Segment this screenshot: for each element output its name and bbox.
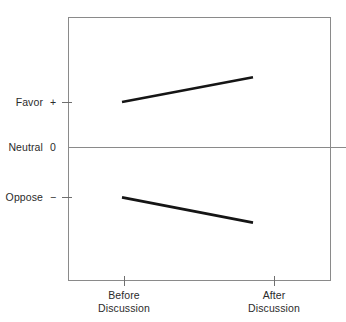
x-axis-label-before-line1: Before [69, 289, 179, 302]
x-axis-label-before-line2: Discussion [69, 302, 179, 315]
x-axis-label-before-discussion: Before Discussion [69, 289, 179, 314]
y-axis-label-neutral: Neutral0 [8, 141, 59, 153]
y-axis-label-oppose-text: Oppose [6, 191, 43, 203]
y-axis-label-favor: Favor+ [16, 96, 59, 108]
x-axis-label-after-line2: Discussion [219, 302, 329, 315]
x-axis-label-after-line1: After [219, 289, 329, 302]
y-axis-tick-favor [62, 102, 72, 103]
y-axis-label-oppose: Oppose− [6, 191, 59, 203]
plot-area-frame [68, 17, 331, 281]
y-axis-label-oppose-symbol: − [50, 191, 59, 203]
polarization-chart: Favor+ Neutral0 Oppose− Before Discussio… [0, 0, 346, 322]
neutral-zero-reference-line [68, 147, 346, 148]
x-axis-label-after-discussion: After Discussion [219, 289, 329, 314]
y-axis-label-favor-text: Favor [16, 96, 43, 108]
y-axis-label-neutral-text: Neutral [8, 141, 43, 153]
y-axis-label-neutral-symbol: 0 [50, 141, 59, 153]
x-axis-tick-after-discussion [274, 276, 275, 286]
y-axis-label-favor-symbol: + [50, 96, 59, 108]
x-axis-tick-before-discussion [124, 276, 125, 286]
y-axis-tick-oppose [62, 197, 72, 198]
